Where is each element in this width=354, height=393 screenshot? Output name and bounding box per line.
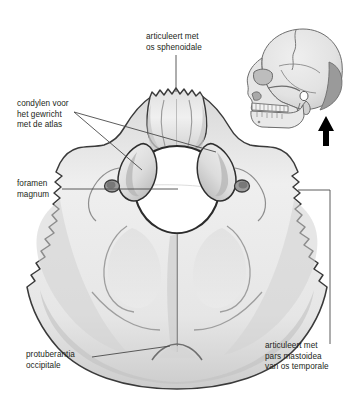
condylar-canal-right-inner xyxy=(239,182,248,189)
condylar-canal-left-inner xyxy=(107,182,116,189)
skull-inset xyxy=(247,29,342,146)
label-articuleert-pars-mastoidea: articuleert met pars mastoidea van os te… xyxy=(265,341,329,373)
orbit xyxy=(253,69,272,85)
label-articuleert-os-sphenoidale: articuleert met os sphenoidale xyxy=(146,32,202,53)
nasal-aperture xyxy=(252,92,261,100)
acoustic-meatus xyxy=(300,91,308,100)
label-protuberantia-occipitale: protuberantia occipitale xyxy=(26,350,75,371)
direction-arrow-icon xyxy=(318,116,334,146)
label-foramen-magnum: foramen magnum xyxy=(17,179,49,200)
anatomy-illustration xyxy=(0,0,354,393)
label-condylen-atlas: condylen voor het gewricht met de atlas xyxy=(17,99,69,131)
mental-foramen xyxy=(258,121,261,124)
occipital-bone-figure: articuleert met os sphenoidale condylen … xyxy=(0,0,354,393)
